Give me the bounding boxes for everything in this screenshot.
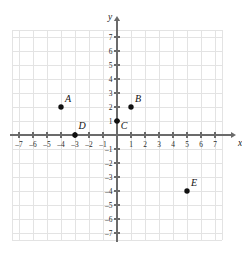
point-c-label: C — [121, 120, 128, 131]
x-tick-label: 7 — [213, 140, 217, 149]
point-e-label: E — [190, 177, 197, 188]
y-tick-label: 4 — [109, 75, 113, 84]
y-tick-label: 3 — [109, 89, 113, 98]
x-tick-label: 2 — [143, 140, 147, 149]
coordinate-plane-figure: –7–6–5–4–3–2–112345677654321–1–2–3–4–5–6… — [0, 0, 242, 257]
x-tick-label: 4 — [171, 140, 175, 149]
x-tick-label: –4 — [56, 140, 65, 149]
plotted-points: ABCDE — [58, 93, 197, 194]
y-tick-label: –4 — [104, 187, 113, 196]
y-tick-label: 6 — [109, 47, 113, 56]
y-tick-label: 2 — [109, 103, 113, 112]
point-a-label: A — [64, 93, 72, 104]
x-axis-label: x — [237, 138, 242, 148]
y-tick-label: –2 — [104, 159, 113, 168]
x-tick-label: –2 — [84, 140, 93, 149]
x-tick-label: –5 — [42, 140, 51, 149]
y-tick-label: –7 — [104, 229, 113, 238]
x-tick-label: 3 — [157, 140, 161, 149]
point-c-dot — [114, 118, 119, 123]
point-d-dot — [72, 132, 77, 137]
x-tick-label: 1 — [129, 140, 133, 149]
x-tick-label: –6 — [28, 140, 37, 149]
x-tick-label: 5 — [185, 140, 189, 149]
y-axis-label: y — [107, 12, 113, 22]
point-a-dot — [58, 104, 63, 109]
y-tick-label: –1 — [104, 145, 113, 154]
y-tick-label: –6 — [104, 215, 113, 224]
y-tick-label: –3 — [104, 173, 113, 182]
point-e-dot — [184, 188, 189, 193]
x-tick-label: –3 — [70, 140, 79, 149]
point-d-label: D — [77, 120, 86, 131]
y-tick-label: 7 — [109, 33, 113, 42]
y-tick-label: 5 — [109, 61, 113, 70]
y-tick-label: 1 — [109, 117, 113, 126]
x-tick-label: 6 — [199, 140, 203, 149]
x-tick-label: –7 — [14, 140, 23, 149]
y-tick-label: –5 — [104, 201, 113, 210]
point-b-label: B — [135, 93, 141, 104]
point-b-dot — [128, 104, 133, 109]
coordinate-plane-svg: –7–6–5–4–3–2–112345677654321–1–2–3–4–5–6… — [0, 0, 242, 257]
